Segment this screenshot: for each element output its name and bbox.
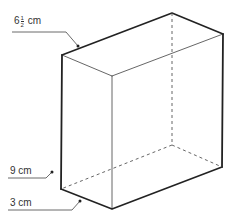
- bottom-edges: [61, 167, 222, 209]
- fraction-numerator: 1: [21, 15, 24, 22]
- hidden-bottom-left-edge: [61, 145, 172, 189]
- fraction-denominator: 2: [21, 22, 24, 28]
- height-leader-dot: [51, 171, 54, 174]
- length-label: 612 cm: [14, 15, 41, 28]
- height-label: 9 cm: [10, 166, 32, 176]
- top-front-edge: [62, 55, 112, 76]
- top-right-edge: [112, 34, 223, 76]
- top-face-edges: [62, 13, 223, 55]
- cuboid-figure: [0, 0, 235, 219]
- width-leader-dot: [79, 200, 82, 203]
- width-label: 3 cm: [10, 198, 32, 208]
- hidden-bottom-right-edge: [172, 145, 222, 167]
- length-leader-line: [12, 32, 78, 46]
- length-whole: 6: [14, 15, 20, 26]
- right-vertical-edge: [222, 34, 223, 167]
- length-fraction: 12: [21, 15, 24, 28]
- length-leader-dot: [77, 45, 80, 48]
- left-vertical-edge: [61, 55, 62, 189]
- length-unit: cm: [28, 15, 41, 26]
